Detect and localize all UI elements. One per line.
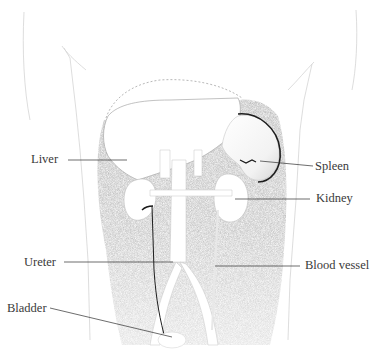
kidney-right <box>214 174 248 222</box>
label-ureter: Ureter <box>24 256 56 269</box>
label-blood-vessel: Blood vessel <box>305 259 369 272</box>
label-spleen: Spleen <box>315 160 349 173</box>
label-liver: Liver <box>31 153 58 166</box>
anatomy-diagram: Liver Spleen Kidney Ureter Blood vessel … <box>0 0 373 362</box>
anatomy-illustration <box>0 0 373 362</box>
label-bladder: Bladder <box>7 302 47 315</box>
label-kidney: Kidney <box>316 192 353 205</box>
